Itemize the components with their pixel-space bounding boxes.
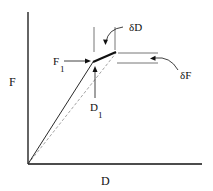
delta-d-curved-arrow bbox=[106, 27, 123, 42]
d1-arrowhead-icon bbox=[93, 66, 98, 72]
secant-dashed-line bbox=[28, 53, 116, 164]
y-axis-label: F bbox=[9, 75, 16, 89]
d1-subscript: 1 bbox=[98, 110, 103, 120]
force-displacement-diagram: F D F 1 D 1 δD δF bbox=[0, 0, 213, 191]
delta-d-label: δD bbox=[129, 21, 142, 33]
f1-arrowhead-icon bbox=[85, 59, 91, 64]
f1-label: F bbox=[53, 55, 59, 67]
x-axis-label: D bbox=[101, 174, 110, 188]
d1-label: D bbox=[90, 101, 98, 113]
loading-line bbox=[28, 62, 93, 164]
delta-f-arrowhead-icon bbox=[150, 56, 156, 61]
delta-d-arrowhead-icon bbox=[103, 40, 108, 46]
delta-f-curved-arrow bbox=[155, 58, 178, 70]
delta-f-label: δF bbox=[180, 69, 191, 81]
f1-subscript: 1 bbox=[60, 64, 65, 74]
